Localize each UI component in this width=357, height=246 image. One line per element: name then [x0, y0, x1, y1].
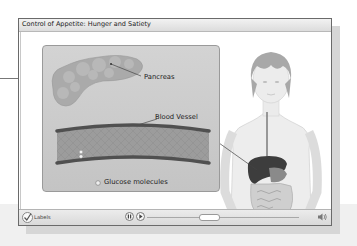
animation-stage: Pancreas Blood Vessel: [20, 32, 330, 210]
speaker-icon[interactable]: [317, 212, 327, 222]
glucose-legend-label: Glucose molecules: [104, 178, 168, 186]
detail-panel: Pancreas Blood Vessel: [42, 45, 220, 192]
player-window: Control of Appetite: Hunger and Satiety: [18, 18, 332, 226]
checkmark-icon: [23, 213, 32, 222]
window-title: Control of Appetite: Hunger and Satiety: [22, 20, 151, 28]
playback-controls: Labels: [19, 209, 331, 225]
pancreas-leader: [109, 62, 149, 82]
progress-track[interactable]: [147, 217, 299, 218]
labels-toggle[interactable]: [22, 212, 33, 223]
blood-vessel-label: Blood Vessel: [155, 113, 198, 121]
glucose-legend-icon: [95, 180, 101, 186]
pancreas-label: Pancreas: [144, 73, 175, 81]
progress-slider-thumb[interactable]: [199, 214, 220, 221]
labels-toggle-label[interactable]: Labels: [34, 214, 51, 220]
pause-button[interactable]: [125, 212, 134, 221]
human-figure: [211, 32, 331, 212]
connector-line: [0, 78, 19, 79]
play-icon: [137, 213, 144, 220]
callout-line: [219, 142, 259, 172]
play-button[interactable]: [136, 212, 145, 221]
title-bar: Control of Appetite: Hunger and Satiety: [19, 19, 331, 32]
pause-icon: [126, 213, 133, 220]
blood-vessel-illustration: [53, 123, 213, 173]
